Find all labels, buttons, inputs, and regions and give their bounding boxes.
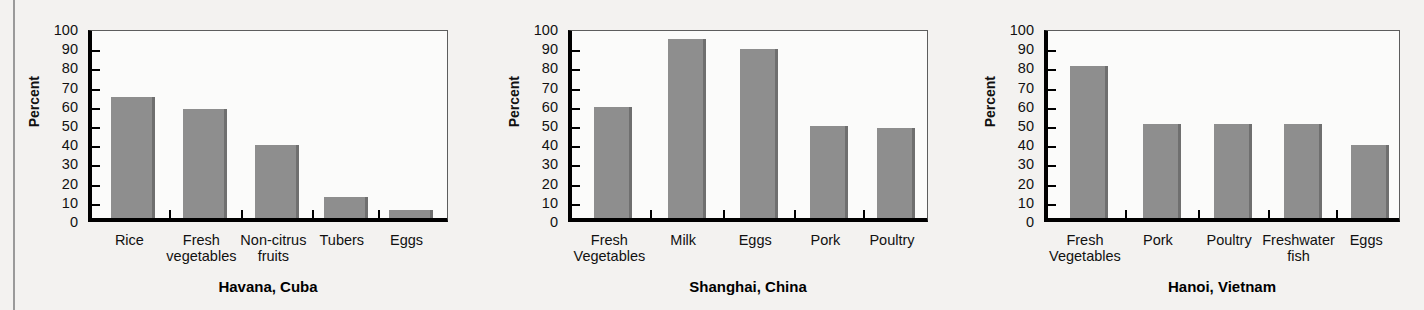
bar-hanoi-3 bbox=[1284, 124, 1322, 218]
plot-area-havana bbox=[88, 30, 448, 222]
y-tick-label: 80 bbox=[62, 61, 78, 76]
y-axis-tick bbox=[1047, 204, 1056, 206]
bar-havana-2 bbox=[255, 145, 299, 218]
y-axis-tick bbox=[91, 69, 100, 71]
x-axis-label: Tubers bbox=[320, 232, 365, 248]
x-axis-label: Poultry bbox=[1207, 232, 1252, 248]
x-axis-tick bbox=[378, 210, 380, 219]
y-tick-label: 70 bbox=[1018, 80, 1034, 95]
x-axis-tick bbox=[312, 210, 314, 219]
y-tick-label: 30 bbox=[62, 157, 78, 172]
y-axis-tick bbox=[1047, 108, 1056, 110]
y-axis-tick bbox=[91, 204, 100, 206]
y-axis-tick bbox=[1047, 89, 1056, 91]
y-tick-label: 90 bbox=[1018, 42, 1034, 57]
y-tick-label: 0 bbox=[550, 215, 558, 230]
bar-havana-0 bbox=[111, 97, 155, 218]
y-axis-tick bbox=[571, 146, 580, 148]
y-axis-tick bbox=[1047, 127, 1056, 129]
x-axis-label: Eggs bbox=[1350, 232, 1383, 248]
y-axis-tick bbox=[571, 127, 580, 129]
x-axis-tick bbox=[863, 210, 865, 219]
chart-panel-shanghai: Percent0102030405060708090100Fresh Veget… bbox=[480, 0, 960, 310]
y-tick-label: 50 bbox=[62, 119, 78, 134]
x-axis-label: Rice bbox=[115, 232, 144, 248]
y-tick-label: 80 bbox=[1018, 61, 1034, 76]
y-tick-label: 0 bbox=[1026, 215, 1034, 230]
y-axis-tick bbox=[571, 108, 580, 110]
y-tick-label: 90 bbox=[542, 42, 558, 57]
x-axis-label: Fresh vegetables bbox=[166, 232, 236, 264]
y-axis-tick bbox=[571, 165, 580, 167]
bar-shanghai-1 bbox=[668, 39, 706, 218]
x-axis-label: Milk bbox=[670, 232, 696, 248]
y-tick-label: 80 bbox=[542, 61, 558, 76]
bar-havana-3 bbox=[324, 197, 368, 218]
x-axis-tick bbox=[794, 210, 796, 219]
y-tick-label: 40 bbox=[1018, 138, 1034, 153]
y-tick-label: 30 bbox=[1018, 157, 1034, 172]
y-axis-tick-labels-hanoi: 0102030405060708090100 bbox=[994, 30, 1034, 222]
x-axis-label: Eggs bbox=[390, 232, 423, 248]
y-axis-tick bbox=[91, 108, 100, 110]
x-axis-label: Freshwater fish bbox=[1262, 232, 1335, 264]
chart-title-hanoi: Hanoi, Vietnam bbox=[1168, 278, 1276, 295]
y-tick-label: 40 bbox=[542, 138, 558, 153]
y-tick-label: 20 bbox=[62, 176, 78, 191]
y-tick-label: 40 bbox=[62, 138, 78, 153]
x-axis-tick bbox=[169, 210, 171, 219]
bar-havana-4 bbox=[389, 210, 433, 218]
y-tick-label: 50 bbox=[1018, 119, 1034, 134]
y-axis-tick-labels-shanghai: 0102030405060708090100 bbox=[518, 30, 558, 222]
plot-area-hanoi bbox=[1044, 30, 1400, 222]
y-tick-label: 30 bbox=[542, 157, 558, 172]
y-axis-tick bbox=[91, 185, 100, 187]
y-axis-tick bbox=[571, 50, 580, 52]
x-axis-tick bbox=[1268, 210, 1270, 219]
x-axis-label: Pork bbox=[810, 232, 840, 248]
y-tick-label: 20 bbox=[1018, 176, 1034, 191]
y-axis-tick bbox=[91, 127, 100, 129]
chart-title-shanghai: Shanghai, China bbox=[689, 278, 807, 295]
x-axis-tick bbox=[723, 210, 725, 219]
bar-shanghai-0 bbox=[594, 107, 632, 218]
x-axis-label: Pork bbox=[1143, 232, 1173, 248]
y-axis-tick bbox=[91, 50, 100, 52]
x-axis-label: Fresh Vegetables bbox=[1049, 232, 1121, 264]
y-tick-label: 10 bbox=[62, 196, 78, 211]
y-tick-label: 50 bbox=[542, 119, 558, 134]
y-axis-tick bbox=[1047, 146, 1056, 148]
plot-area-shanghai bbox=[568, 30, 928, 222]
bar-shanghai-3 bbox=[810, 126, 848, 218]
y-axis-tick bbox=[91, 146, 100, 148]
y-axis-tick bbox=[1047, 69, 1056, 71]
y-axis-tick bbox=[571, 185, 580, 187]
y-tick-label: 10 bbox=[542, 196, 558, 211]
bar-hanoi-1 bbox=[1143, 124, 1181, 218]
y-tick-label: 70 bbox=[542, 80, 558, 95]
y-tick-label: 60 bbox=[1018, 100, 1034, 115]
y-axis-tick-labels-havana: 0102030405060708090100 bbox=[38, 30, 78, 222]
y-tick-label: 100 bbox=[54, 23, 78, 38]
y-tick-label: 20 bbox=[542, 176, 558, 191]
y-tick-label: 100 bbox=[1010, 23, 1034, 38]
y-tick-label: 100 bbox=[534, 23, 558, 38]
y-axis-tick bbox=[571, 204, 580, 206]
y-tick-label: 70 bbox=[62, 80, 78, 95]
chart-title-havana: Havana, Cuba bbox=[218, 278, 317, 295]
y-axis-tick bbox=[571, 89, 580, 91]
x-axis-label: Non-citrus fruits bbox=[240, 232, 306, 264]
chart-panel-havana: Percent0102030405060708090100RiceFresh v… bbox=[0, 0, 480, 310]
y-tick-label: 90 bbox=[62, 42, 78, 57]
bar-hanoi-2 bbox=[1214, 124, 1252, 218]
chart-panel-hanoi: Percent0102030405060708090100Fresh Veget… bbox=[960, 0, 1424, 310]
x-axis-tick bbox=[650, 210, 652, 219]
y-tick-label: 0 bbox=[70, 215, 78, 230]
y-axis-tick bbox=[1047, 185, 1056, 187]
x-axis-tick bbox=[1336, 210, 1338, 219]
y-axis-tick bbox=[1047, 50, 1056, 52]
x-axis-label: Fresh Vegetables bbox=[574, 232, 646, 264]
y-axis-tick bbox=[91, 165, 100, 167]
x-axis-tick bbox=[1198, 210, 1200, 219]
x-axis-tick bbox=[241, 210, 243, 219]
